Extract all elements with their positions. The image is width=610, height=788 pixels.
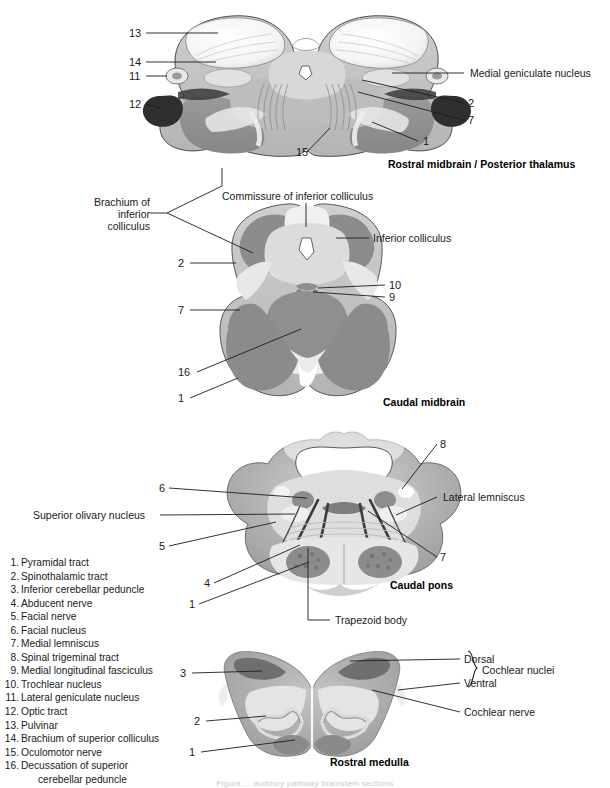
legend-item-label: Medial lemniscus — [21, 638, 99, 649]
callout-number-13: 13 — [129, 27, 141, 39]
legend-item-number: 8. — [4, 651, 19, 665]
legend-item-number: 7. — [4, 637, 19, 651]
label-lateral-lemniscus: Lateral lemniscus — [443, 491, 525, 503]
label-medial-geniculate-nucleus: Medial geniculate nucleus — [470, 67, 591, 79]
legend-item-label: Lateral geniculate nucleus — [21, 692, 139, 703]
legend-item: 10.Trochlear nucleus — [4, 678, 189, 692]
legend-item: 2.Spinothalamic tract — [4, 570, 189, 584]
label-brachium-line-1: Brachium of — [60, 196, 150, 208]
legend-item-label: Spinal trigeminal tract — [21, 652, 119, 663]
callout-number-1-rostral-medulla: 1 — [189, 746, 195, 758]
legend-item-number: 14. — [4, 732, 19, 746]
legend-item-number: 13. — [4, 719, 19, 733]
callout-number-1-rostral-midbrain: 1 — [423, 135, 429, 147]
legend-item-number: 12. — [4, 705, 19, 719]
legend-item: 9.Medial longitudinal fasciculus — [4, 664, 189, 678]
section-title-rostral-midbrain: Rostral midbrain / Posterior thalamus — [388, 158, 575, 170]
legend-item-number: 4. — [4, 597, 19, 611]
label-superior-olivary-nucleus: Superior olivary nucleus — [33, 509, 145, 521]
legend-item-number: 16. — [4, 759, 19, 773]
label-cochlear-nuclei: Cochlear nuclei — [482, 664, 554, 676]
label-cochlear-nerve: Cochlear nerve — [464, 706, 535, 718]
legend-item-number: 1. — [4, 556, 19, 570]
legend-item: 5.Facial nerve — [4, 610, 189, 624]
callout-number-2-caudal-midbrain: 2 — [178, 257, 184, 269]
callout-number-2-rostral-medulla: 2 — [194, 715, 200, 727]
section-title-caudal-midbrain: Caudal midbrain — [383, 396, 465, 408]
legend-item: 4.Abducent nerve — [4, 597, 189, 611]
legend-item-number: 15. — [4, 746, 19, 760]
legend-item: 7.Medial lemniscus — [4, 637, 189, 651]
legend-item: 15.Oculomotor nerve — [4, 746, 189, 760]
callout-number-10: 10 — [389, 279, 401, 291]
legend-item-number: 3. — [4, 583, 19, 597]
callout-number-2-rostral-midbrain: 2 — [468, 97, 474, 109]
legend-item: 14.Brachium of superior colliculus — [4, 732, 189, 746]
legend-item: 3.Inferior cerebellar peduncle — [4, 583, 189, 597]
callout-number-7-caudal-midbrain: 7 — [178, 304, 184, 316]
label-brachium-line-2: inferior — [60, 208, 150, 220]
legend-item-number: 5. — [4, 610, 19, 624]
legend-item-label: Facial nucleus — [21, 625, 86, 636]
legend-item-label: Oculomotor nerve — [21, 747, 102, 758]
callout-number-4: 4 — [204, 577, 210, 589]
callout-number-11: 11 — [129, 70, 140, 82]
legend-item-number: 2. — [4, 570, 19, 584]
legend-item-label: Decussation of superior — [21, 760, 128, 771]
section-title-rostral-medulla: Rostral medulla — [330, 756, 409, 768]
leader-lines-rostral-midbrain — [146, 33, 464, 152]
callout-number-15: 15 — [296, 146, 308, 158]
leader-lines-rostral-medulla — [192, 651, 477, 752]
legend-item-label: Spinothalamic tract — [21, 571, 108, 582]
leader-lines-caudal-pons — [160, 444, 437, 620]
label-brachium-line-3: colliculus — [60, 220, 150, 232]
section-artwork-caudal-pons — [227, 426, 461, 596]
section-title-caudal-pons: Caudal pons — [390, 579, 453, 591]
callout-number-1-caudal-midbrain: 1 — [178, 392, 184, 404]
legend-item-label: Facial nerve — [21, 611, 77, 622]
callout-number-1-caudal-pons: 1 — [189, 598, 195, 610]
callout-number-14: 14 — [129, 56, 141, 68]
callout-number-5: 5 — [159, 540, 165, 552]
legend-item: 8.Spinal trigeminal tract — [4, 651, 189, 665]
legend-item-number: 9. — [4, 664, 19, 678]
section-artwork-caudal-midbrain — [220, 204, 396, 396]
legend-item-label: Inferior cerebellar peduncle — [21, 584, 144, 595]
legend-item: 11.Lateral geniculate nucleus — [4, 691, 189, 705]
label-ventral: Ventral — [464, 677, 497, 689]
legend-item-label: Medial longitudinal fasciculus — [21, 665, 153, 676]
section-artwork-rostral-medulla — [219, 652, 406, 757]
callout-number-12: 12 — [129, 98, 141, 110]
figure-canvas: 13 14 11 12 15 Medial geniculate nucleus… — [0, 0, 610, 788]
label-inferior-colliculus: Inferior colliculus — [373, 232, 451, 244]
legend-item-label: Pyramidal tract — [21, 557, 89, 568]
legend-item-label: Abducent nerve — [21, 598, 92, 609]
label-trapezoid-body: Trapezoid body — [335, 614, 407, 626]
legend-item: 1.Pyramidal tract — [4, 556, 189, 570]
legend-list: 1.Pyramidal tract2.Spinothalamic tract3.… — [4, 556, 189, 786]
legend-item-number: 6. — [4, 624, 19, 638]
callout-number-7-caudal-pons: 7 — [440, 551, 446, 563]
callout-number-9: 9 — [389, 291, 395, 303]
label-brachium-of-inferior-colliculus: Brachium of inferior colliculus — [60, 196, 150, 232]
label-commissure-of-inferior-colliculus: Commissure of inferior colliculus — [222, 190, 373, 202]
legend-item-label: Pulvinar — [21, 720, 58, 731]
callout-number-7-rostral-midbrain: 7 — [468, 114, 474, 126]
leader-lines-caudal-midbrain — [150, 168, 385, 398]
section-artwork-rostral-midbrain — [143, 16, 471, 157]
legend-item-label: Optic tract — [21, 706, 67, 717]
legend-item: 6.Facial nucleus — [4, 624, 189, 638]
callout-number-8: 8 — [440, 438, 446, 450]
legend-item-number: 10. — [4, 678, 19, 692]
legend-item-label: Brachium of superior colliculus — [21, 733, 159, 744]
legend-item-label: Trochlear nucleus — [21, 679, 102, 690]
figure-caption: Figure ... auditory pathway brainstem se… — [0, 779, 610, 788]
callout-number-16-caudal-midbrain: 16 — [178, 366, 190, 378]
legend-item: 13.Pulvinar — [4, 719, 189, 733]
callout-number-6: 6 — [159, 482, 165, 494]
legend-item-number: 11. — [4, 691, 19, 705]
legend-item: 12.Optic tract — [4, 705, 189, 719]
